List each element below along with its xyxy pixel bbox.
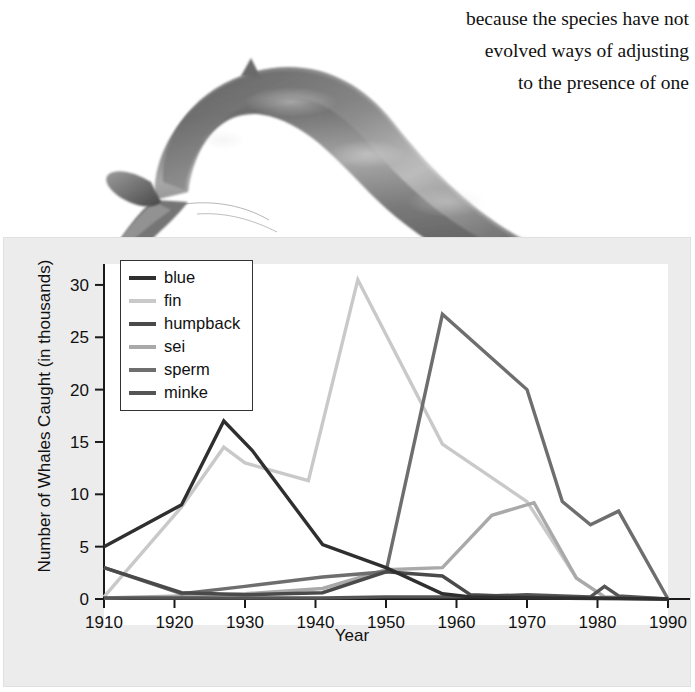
x-tick-label: 1930 <box>226 613 264 632</box>
legend-swatch-humpback <box>129 322 156 326</box>
body-text-line-clipped: … <box>259 0 689 3</box>
y-tick-label: 15 <box>70 433 89 452</box>
legend-swatch-sei <box>129 345 156 349</box>
y-tick-label: 10 <box>70 485 89 504</box>
y-tick-label: 0 <box>80 590 89 609</box>
legend-swatch-sperm <box>129 368 156 372</box>
legend-swatch-fin <box>129 299 156 303</box>
plot-area: 0510152025301910192019301940195019601970… <box>4 238 690 638</box>
legend-label-fin: fin <box>164 292 181 309</box>
legend-label-sei: sei <box>164 338 185 355</box>
x-tick-label: 1950 <box>367 613 405 632</box>
body-text-line-3: to the presence of one <box>259 67 689 99</box>
y-tick-label: 25 <box>70 328 89 347</box>
whaling-line-chart: Number of Whales Caught (in thousands) Y… <box>4 238 690 686</box>
x-tick-label: 1940 <box>297 613 335 632</box>
legend-item-minke: minke <box>129 381 240 404</box>
x-tick-label: 1920 <box>156 613 194 632</box>
page-root: … because the species have not evolved w… <box>0 0 695 692</box>
legend-label-sperm: sperm <box>164 361 210 378</box>
legend-label-blue: blue <box>164 269 195 286</box>
x-tick-label: 1970 <box>508 613 546 632</box>
y-tick-label: 30 <box>70 276 89 295</box>
body-text-line-2: evolved ways of adjusting <box>259 35 689 67</box>
legend-swatch-minke <box>129 391 156 395</box>
x-tick-label: 1990 <box>649 613 687 632</box>
body-text-line-1: because the species have not <box>259 3 689 35</box>
y-tick-label: 20 <box>70 381 89 400</box>
legend-label-humpback: humpback <box>164 315 240 332</box>
legend-swatch-blue <box>129 276 156 280</box>
x-tick-label: 1960 <box>438 613 476 632</box>
legend-item-fin: fin <box>129 289 240 312</box>
legend-item-humpback: humpback <box>129 312 240 335</box>
legend-item-sei: sei <box>129 335 240 358</box>
y-tick-label: 5 <box>80 538 89 557</box>
x-tick-label: 1980 <box>579 613 617 632</box>
legend-label-minke: minke <box>164 384 208 401</box>
chart-legend: blue fin humpback sei sperm minke <box>120 260 253 411</box>
body-text-column: … because the species have not evolved w… <box>259 0 689 99</box>
x-tick-label: 1910 <box>85 613 123 632</box>
legend-item-blue: blue <box>129 266 240 289</box>
legend-item-sperm: sperm <box>129 358 240 381</box>
